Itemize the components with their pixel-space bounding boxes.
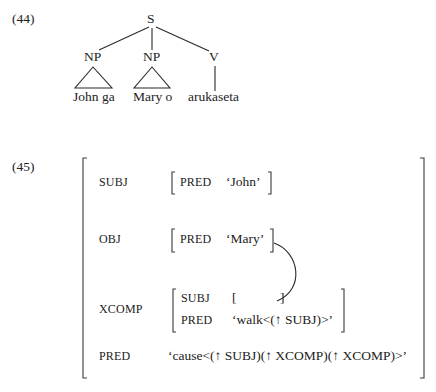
triangle-icon xyxy=(75,67,170,88)
subj-bracket xyxy=(172,172,271,194)
tree-edges xyxy=(99,27,215,91)
xcomp-bracket xyxy=(173,289,344,332)
structure-sharing-arc xyxy=(274,243,296,301)
outer-bracket xyxy=(83,158,424,378)
diagram-lines xyxy=(0,0,436,392)
obj-bracket xyxy=(172,229,273,252)
